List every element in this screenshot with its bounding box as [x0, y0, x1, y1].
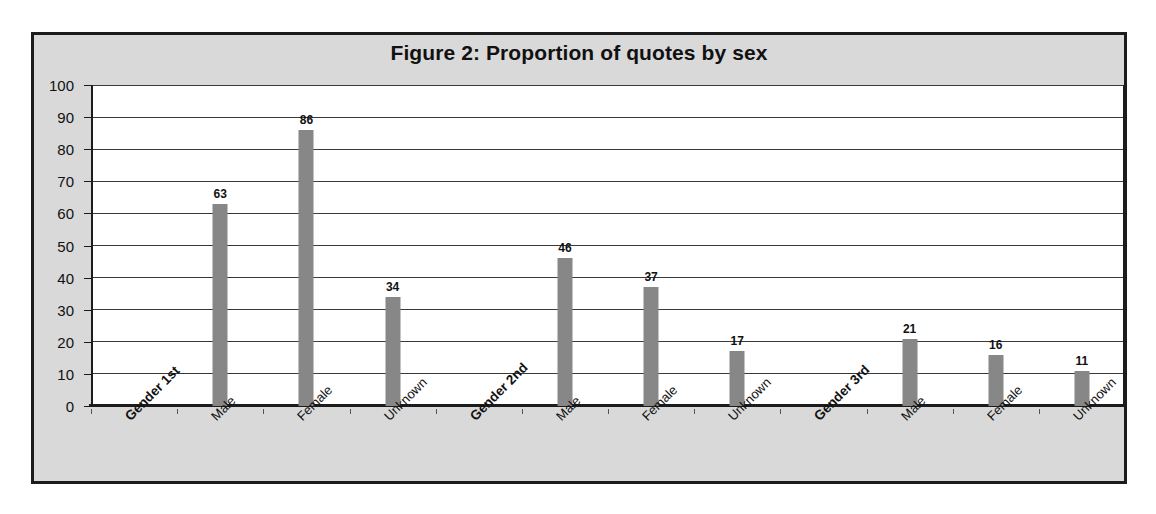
y-tick-label: 0 — [66, 398, 74, 415]
y-tick-label: 70 — [57, 173, 74, 190]
bar — [557, 258, 572, 406]
y-tick-mark — [84, 278, 91, 279]
y-tick-label: 40 — [57, 269, 74, 286]
bar-value-label: 11 — [1076, 354, 1089, 368]
y-axis: 1009080706050403020100 — [34, 85, 84, 406]
bar-value-label: 21 — [903, 322, 916, 336]
y-tick-mark — [84, 246, 91, 247]
x-tick-mark — [522, 409, 523, 414]
y-tick-mark — [84, 310, 91, 311]
x-tick-mark — [350, 409, 351, 414]
bar — [385, 297, 400, 406]
y-tick-label: 80 — [57, 141, 74, 158]
bar-value-label: 37 — [644, 270, 657, 284]
y-tick-label: 10 — [57, 365, 74, 382]
y-tick-mark — [84, 149, 91, 150]
y-tick-label: 60 — [57, 205, 74, 222]
y-tick-label: 30 — [57, 301, 74, 318]
x-axis: Gender 1stMaleFemaleUnknownGender 2ndMal… — [91, 409, 1125, 481]
bar — [213, 204, 228, 406]
y-tick-label: 20 — [57, 333, 74, 350]
y-tick-mark — [84, 85, 91, 86]
y-tick-label: 50 — [57, 237, 74, 254]
y-tick-mark — [84, 374, 91, 375]
y-tick-mark — [84, 213, 91, 214]
x-tick-mark — [91, 409, 92, 414]
bar — [644, 287, 659, 406]
bar-value-label: 46 — [558, 241, 571, 255]
x-tick-mark — [436, 409, 437, 414]
bar-value-label: 16 — [989, 338, 1002, 352]
bar — [299, 130, 314, 406]
screenshot-root: Figure 2: Proportion of quotes by sex 10… — [0, 0, 1156, 514]
x-tick-mark — [1039, 409, 1040, 414]
y-tick-label: 100 — [49, 77, 74, 94]
bar-value-label: 17 — [731, 334, 744, 348]
x-tick-mark — [867, 409, 868, 414]
x-tick-mark — [263, 409, 264, 414]
y-tick-mark — [84, 117, 91, 118]
x-tick-mark — [780, 409, 781, 414]
x-tick-mark — [177, 409, 178, 414]
bar-value-label: 63 — [214, 187, 227, 201]
chart-frame: Figure 2: Proportion of quotes by sex 10… — [31, 32, 1127, 484]
bar-value-label: 86 — [300, 113, 313, 127]
bar-value-label: 34 — [386, 280, 399, 294]
y-tick-mark — [84, 181, 91, 182]
x-tick-mark — [608, 409, 609, 414]
x-tick-mark — [694, 409, 695, 414]
y-tick-mark — [84, 342, 91, 343]
bars-layer: 638634463717211611 — [91, 85, 1125, 406]
x-tick-mark — [953, 409, 954, 414]
page-title: Figure 2: Proportion of quotes by sex — [34, 41, 1124, 65]
y-tick-label: 90 — [57, 109, 74, 126]
